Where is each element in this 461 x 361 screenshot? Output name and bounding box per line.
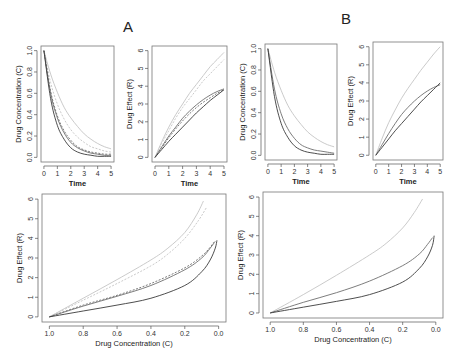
y-tick-label: 6	[248, 195, 255, 199]
x-axis-label: Drug Concentration (C)	[314, 335, 392, 344]
x-tick-label: 0.4	[365, 326, 375, 333]
y-tick-label: 0.4	[26, 110, 33, 120]
x-tick-label: 4	[96, 170, 100, 177]
series-line-mid-solid	[270, 238, 432, 313]
x-tick-label: 0.0	[431, 326, 441, 333]
x-axis-label: Time	[181, 179, 198, 188]
y-tick-label: 6	[358, 45, 365, 49]
x-tick-label: 4	[319, 168, 323, 175]
series-line-dark-solid	[49, 240, 217, 317]
x-tick-label: 0.8	[78, 330, 88, 337]
series-line-light-solid	[270, 199, 422, 313]
series-line-mid-dashed	[155, 90, 224, 158]
y-tick-label: 0.6	[26, 88, 33, 98]
y-tick-label: 3	[358, 99, 365, 103]
y-tick-label: 0.2	[26, 131, 33, 141]
x-tick-label: 1	[279, 168, 283, 175]
series-line-mid-dashed	[49, 242, 213, 317]
plot-B-effect: 0123450123456TimeDrug Effect (R)	[346, 42, 443, 186]
y-tick-label: 0.8	[26, 67, 33, 77]
y-tick-label: 1.0	[26, 46, 33, 56]
x-tick-label: 1.0	[44, 330, 54, 337]
y-tick-label: 1	[358, 135, 365, 139]
x-tick-label: 0	[374, 168, 378, 175]
series-line-mid-solid	[268, 49, 334, 154]
y-axis-label: Drug Concentration (C)	[14, 65, 23, 143]
y-tick-label: 6	[137, 49, 144, 53]
y-tick-label: 0.6	[250, 86, 257, 96]
x-tick-label: 0.2	[180, 330, 190, 337]
x-tick-label: 0.4	[146, 330, 156, 337]
plot-B-concentration: 0123450.00.20.40.60.81.0TimeDrug Concent…	[238, 44, 337, 186]
y-tick-label: 5	[358, 63, 365, 67]
x-tick-label: 0.8	[298, 326, 308, 333]
figure: A B 0123450.00.20.40.60.81.0TimeDrug Con…	[0, 0, 461, 361]
x-tick-label: 1.0	[265, 326, 275, 333]
x-tick-label: 5	[109, 170, 113, 177]
series-line-light-dashed	[49, 207, 206, 317]
y-axis-label: Drug Concentration (C)	[238, 63, 247, 141]
x-tick-label: 5	[332, 168, 336, 175]
x-tick-label: 0.0	[214, 330, 224, 337]
plot-frame	[263, 192, 443, 318]
y-tick-label: 1.0	[250, 44, 257, 54]
x-tick-label: 0.6	[332, 326, 342, 333]
panel-label-a: A	[123, 18, 133, 35]
y-tick-label: 0	[248, 311, 255, 315]
series-line-dark-solid	[155, 90, 224, 158]
y-tick-label: 3	[27, 256, 34, 260]
y-tick-label: 6	[27, 197, 34, 201]
y-tick-label: 0	[27, 315, 34, 319]
x-tick-label: 3	[82, 170, 86, 177]
x-tick-label: 0.2	[398, 326, 408, 333]
x-tick-label: 0	[153, 170, 157, 177]
series-line-mid-dashed	[44, 51, 111, 155]
y-tick-label: 5	[27, 217, 34, 221]
x-tick-label: 2	[292, 168, 296, 175]
x-axis-label: Drug Concentration (C)	[95, 339, 173, 348]
x-tick-label: 0.6	[112, 330, 122, 337]
x-tick-label: 1	[387, 168, 391, 175]
y-tick-label: 5	[137, 66, 144, 70]
plot-A-concentration: 0123450.00.20.40.60.81.0TimeDrug Concent…	[14, 46, 114, 188]
x-tick-label: 2	[181, 170, 185, 177]
series-line-light-solid	[268, 49, 334, 147]
series-line-mid-solid	[49, 241, 215, 317]
x-tick-label: 0	[42, 170, 46, 177]
x-tick-label: 1	[55, 170, 59, 177]
x-tick-label: 1	[167, 170, 171, 177]
series-line-mid-solid	[44, 51, 111, 156]
x-tick-label: 2	[400, 168, 404, 175]
panel-label-b: B	[341, 10, 351, 27]
y-tick-label: 0	[358, 153, 365, 157]
y-tick-label: 0.0	[26, 152, 33, 162]
plot-A-effect: 0123450123456TimeDrug Effect (R)	[125, 46, 227, 188]
y-tick-label: 1	[248, 292, 255, 296]
y-tick-label: 2	[137, 120, 144, 124]
series-line-dark-solid	[376, 83, 440, 155]
plot-A-phase: 1.00.80.60.40.20.00123456Drug Concentrat…	[15, 194, 226, 348]
y-axis-label: Drug Effect (R)	[346, 76, 355, 126]
series-line-mid-solid	[376, 85, 440, 156]
y-axis-label: Drug Effect (R)	[125, 79, 134, 129]
y-tick-label: 2	[248, 272, 255, 276]
y-tick-label: 0.4	[250, 108, 257, 118]
series-line-light-solid	[49, 201, 203, 317]
y-tick-label: 1	[27, 295, 34, 299]
y-tick-label: 4	[358, 81, 365, 85]
series-line-light-solid	[44, 51, 111, 149]
y-tick-label: 2	[27, 276, 34, 280]
x-tick-label: 5	[438, 168, 442, 175]
y-tick-label: 5	[248, 214, 255, 218]
y-axis-label: Drug Effect (R)	[236, 230, 245, 280]
x-tick-label: 3	[306, 168, 310, 175]
y-tick-label: 2	[358, 117, 365, 121]
y-tick-label: 3	[137, 102, 144, 106]
y-axis-label: Drug Effect (R)	[15, 233, 24, 283]
y-tick-label: 0.8	[250, 65, 257, 75]
y-tick-label: 0	[137, 155, 144, 159]
y-tick-label: 0.0	[250, 150, 257, 160]
x-tick-label: 3	[194, 170, 198, 177]
x-tick-label: 3	[412, 168, 416, 175]
x-tick-label: 0	[266, 168, 270, 175]
